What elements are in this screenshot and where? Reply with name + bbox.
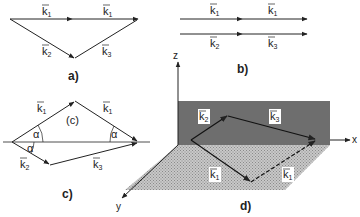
vector-k2-label: k2: [20, 158, 30, 171]
region-c-label: (c): [66, 114, 79, 126]
angle-alpha: α: [27, 142, 34, 154]
panel-c-label: c): [62, 187, 73, 201]
z-axis-label: z: [173, 50, 178, 61]
vector-k3-label: k3: [102, 45, 112, 58]
vector-k1-label: k1: [268, 4, 278, 17]
angle-alpha: α: [111, 128, 118, 140]
panel-b: k1 k1 k2 k3 b): [180, 4, 307, 76]
angle-alpha: α: [33, 128, 40, 140]
vector-k1-label: k1: [103, 102, 113, 115]
vector-k2-label: k2: [210, 37, 220, 50]
vector-k3-label: k3: [93, 158, 103, 171]
y-axis-label: y: [116, 201, 121, 212]
panel-c: α α α (c) k1 k1 k2 k3 c): [3, 101, 150, 201]
vector-k1-label: k1: [103, 5, 113, 18]
panel-b-label: b): [237, 62, 248, 76]
vector-k1-label: k1: [42, 5, 52, 18]
panel-d-label: d): [240, 199, 251, 213]
x-axis-label: x: [352, 134, 357, 145]
panel-a: k1 k1 k2 k3 a): [10, 5, 138, 83]
vector-k1-label: k1: [37, 102, 47, 115]
vector-k2-label: k2: [42, 45, 52, 58]
vector-k3-label: k3: [268, 37, 278, 50]
panel-a-label: a): [68, 69, 79, 83]
wave-vector-diagram: k1 k1 k2 k3 a) k1 k1 k2 k3 b) α α α (c) …: [0, 0, 360, 217]
vector-k1-label: k1: [210, 4, 220, 17]
